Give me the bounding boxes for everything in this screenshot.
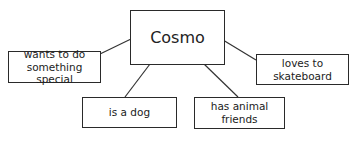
node-label: wants to do something special — [9, 48, 100, 86]
node-label: has animal friends — [211, 100, 268, 125]
edge-cosmo-dog — [125, 64, 150, 97]
node-loves-to-skateboard: loves to skateboard — [256, 54, 349, 85]
center-node-cosmo: Cosmo — [130, 10, 225, 65]
concept-map: Cosmo wants to do something special is a… — [0, 0, 354, 141]
edge-cosmo-friends — [204, 64, 238, 97]
center-node-label: Cosmo — [150, 28, 205, 47]
node-label: loves to skateboard — [273, 57, 332, 82]
edge-cosmo-skate — [223, 40, 256, 60]
node-has-animal-friends: has animal friends — [194, 97, 285, 129]
edge-cosmo-wants — [100, 39, 131, 54]
node-label: is a dog — [109, 106, 150, 119]
node-wants-to-do-something-special: wants to do something special — [8, 51, 101, 83]
node-is-a-dog: is a dog — [82, 97, 177, 128]
